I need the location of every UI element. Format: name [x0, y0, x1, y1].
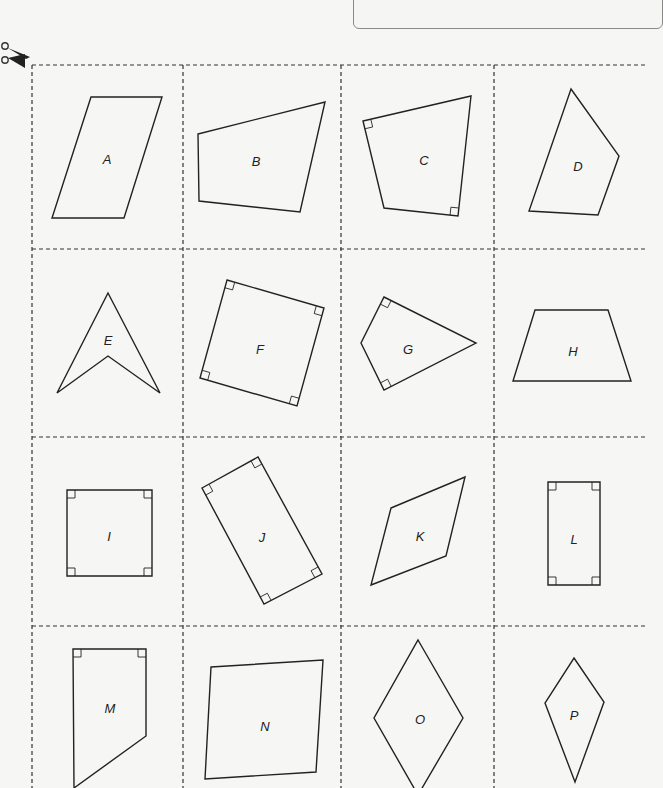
shape-card-n: N	[205, 660, 323, 779]
quadrilateral-shape	[363, 96, 471, 216]
shape-label: F	[256, 342, 265, 357]
quadrilateral-shape	[529, 89, 619, 215]
shape-card-h: H	[513, 310, 631, 381]
shape-label: P	[570, 708, 579, 723]
right-angle-marker	[67, 490, 75, 498]
shape-label: L	[570, 532, 577, 547]
shape-card-i: I	[67, 490, 152, 576]
right-angle-marker	[144, 568, 152, 576]
right-angle-marker	[548, 482, 556, 490]
shape-label: N	[260, 719, 270, 734]
shape-card-m: M	[73, 649, 146, 788]
shape-label: E	[104, 333, 113, 348]
shape-label: D	[573, 159, 582, 174]
shape-label: H	[568, 344, 578, 359]
shape-card-p: P	[545, 658, 604, 782]
right-angle-marker	[67, 568, 75, 576]
shape-card-c: C	[363, 96, 471, 216]
shape-card-a: A	[52, 97, 162, 218]
shape-label: A	[102, 152, 112, 167]
shape-card-d: D	[529, 89, 619, 215]
cut-lines	[32, 65, 645, 788]
shape-label: B	[252, 154, 261, 169]
shape-card-g: G	[361, 297, 476, 390]
shape-label: C	[419, 153, 429, 168]
shape-label: M	[105, 701, 116, 716]
shape-card-j: J	[202, 457, 322, 604]
shape-label: G	[403, 342, 413, 357]
shape-label: K	[416, 529, 426, 544]
shape-label: O	[415, 712, 425, 727]
right-angle-marker	[73, 649, 81, 657]
right-angle-marker	[548, 577, 556, 585]
shape-card-k: K	[371, 477, 465, 585]
shape-card-o: O	[374, 640, 463, 788]
shape-label: I	[107, 529, 111, 544]
shape-label: J	[258, 530, 266, 545]
right-angle-marker	[138, 649, 146, 657]
shape-card-e: E	[57, 293, 160, 393]
shape-card-f: F	[200, 280, 324, 406]
quadrilateral-shape	[73, 649, 146, 788]
quadrilateral-shape	[361, 297, 476, 390]
right-angle-marker	[592, 577, 600, 585]
quadrilateral-shape	[198, 102, 325, 212]
right-angle-marker	[144, 490, 152, 498]
shape-card-l: L	[548, 482, 600, 585]
right-angle-marker	[592, 482, 600, 490]
shape-card-b: B	[198, 102, 325, 212]
